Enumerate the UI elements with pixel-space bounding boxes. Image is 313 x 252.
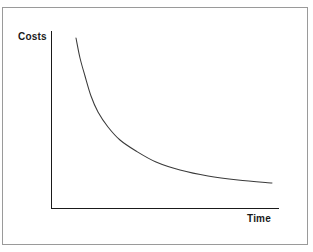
x-axis-label: Time xyxy=(247,213,271,224)
y-axis-label: Costs xyxy=(18,31,47,42)
figure-root: Costs Time xyxy=(0,0,313,252)
cost-decay-curve xyxy=(76,38,272,183)
